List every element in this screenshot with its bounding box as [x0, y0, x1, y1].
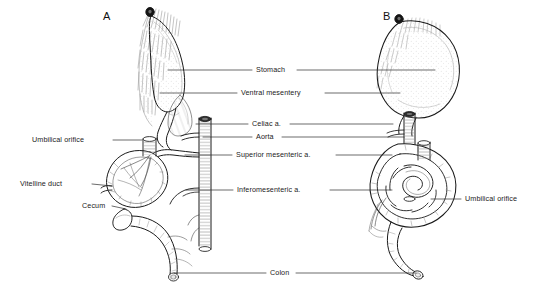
label-vitelline-duct: Vitelline duct	[20, 180, 62, 187]
panel-b-colon	[387, 222, 424, 280]
label-umbilical-orifice-right: Umbilical orifice	[465, 195, 517, 202]
panel-a-cecum	[113, 209, 132, 230]
label-aorta: Aorta	[256, 133, 274, 140]
panel-a-drawing	[101, 7, 211, 281]
panel-a-aorta	[199, 116, 211, 248]
panel-label-b: B	[383, 10, 390, 22]
panel-b-umbilical-orifice	[418, 141, 430, 160]
label-inferomesenteric-artery: Inferomesenteric a.	[237, 186, 300, 193]
panel-a-umbilical-orifice	[143, 137, 156, 156]
label-celiac-artery: Celiac a.	[252, 120, 281, 127]
panel-b-intestinal-coils	[370, 144, 456, 227]
leader-cecum	[112, 206, 126, 209]
panel-a-intestinal-loop	[107, 150, 168, 207]
label-ventral-mesentery: Ventral mesentery	[241, 89, 301, 96]
label-umbilical-orifice-left: Umbilical orifice	[32, 136, 84, 143]
label-stomach: Stomach	[256, 66, 285, 73]
label-cecum: Cecum	[82, 202, 105, 209]
figure-canvas: A B Stomach Ventral mesentery Celiac a. …	[0, 0, 550, 301]
label-superior-mesenteric-artery: Superior mesenteric a.	[236, 151, 311, 158]
panel-a-colon	[131, 216, 179, 281]
panel-label-a: A	[103, 10, 110, 22]
label-colon: Colon	[270, 269, 289, 276]
panel-b-drawing	[369, 15, 459, 281]
